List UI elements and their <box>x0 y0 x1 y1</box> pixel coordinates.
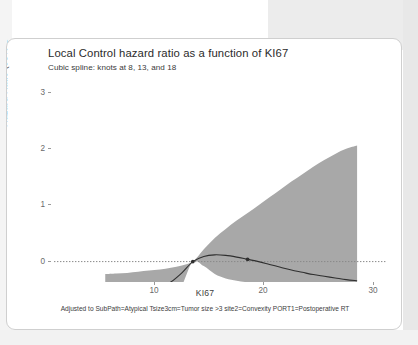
figure-card: Local Control hazard ratio as a function… <box>6 38 402 330</box>
knot-marker-13 <box>191 260 195 264</box>
y-tick-mark-3 <box>48 92 51 93</box>
figure-title: Local Control hazard ratio as a function… <box>48 47 288 59</box>
knot-marker-18 <box>246 257 250 261</box>
x-tick-mark-30 <box>373 282 374 285</box>
y-tick-mark-2 <box>48 148 51 149</box>
figure-footnote: Adjusted to SubPath=Atypical Tsize3cm=Tu… <box>7 305 401 312</box>
x-tick-mark-20 <box>263 282 264 285</box>
y-tick-label-1: 1 <box>29 200 45 209</box>
x-axis-label: KI67 <box>7 288 401 298</box>
x-tick-mark-10 <box>154 282 155 285</box>
scan-edge-right <box>403 0 418 345</box>
scan-edge-bottom <box>0 330 418 345</box>
y-axis-label: Hazard Ratio (95% CI) vs 13 <box>7 39 9 127</box>
plot-area <box>54 96 386 282</box>
spline-plot-svg <box>54 96 386 282</box>
y-tick-mark-0 <box>48 261 51 262</box>
y-tick-mark-1 <box>48 204 51 205</box>
y-tick-label-3: 3 <box>29 88 45 97</box>
figure-subtitle: Cubic spline: knots at 8, 13, and 18 <box>48 63 176 72</box>
y-tick-label-2: 2 <box>29 144 45 153</box>
y-tick-label-0: 0 <box>29 257 45 266</box>
